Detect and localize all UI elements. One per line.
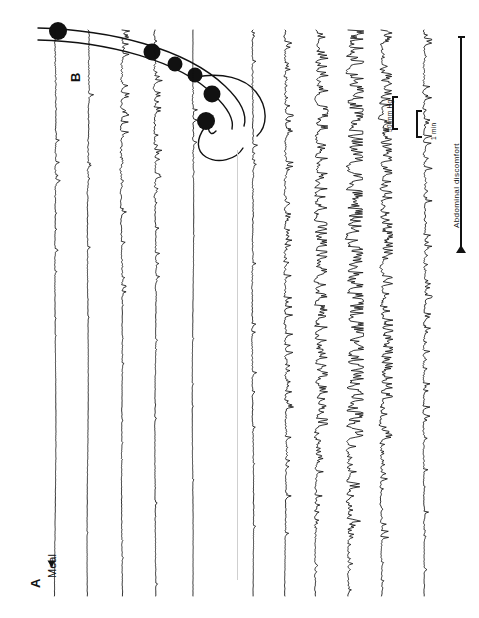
panel-label-a: A <box>28 578 43 588</box>
figure-canvas: B Meal A 50 mm Hg 1 min Abdominal discom… <box>0 0 479 618</box>
pressure-scale-label: 50 mm Hg <box>386 100 393 132</box>
group-divider <box>237 150 238 580</box>
trace-channel <box>371 0 417 618</box>
double-arrow-icon <box>456 245 466 253</box>
trace-channel <box>183 0 229 618</box>
trace-channel <box>414 0 460 618</box>
time-scale-label: 1 min <box>430 123 437 140</box>
abdominal-discomfort-label: Abdominal discomfort <box>452 143 461 228</box>
arrow-marker-icon <box>48 561 56 568</box>
